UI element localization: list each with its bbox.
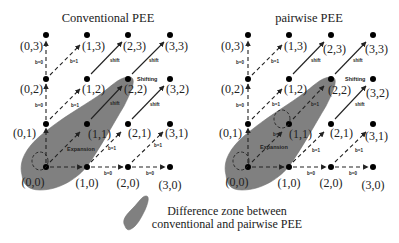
label-3-2: (3,2)	[366, 86, 389, 100]
label-2-0: (2,0)	[320, 176, 343, 190]
label-1-3: (1,3)	[284, 39, 307, 53]
panel-pairwise-pee: pairwise PEE	[219, 11, 389, 192]
edge-label-b0: b=0	[273, 132, 281, 137]
label-1-2: (1,2)	[82, 82, 105, 96]
edge-label-b0: b=0	[35, 60, 43, 65]
edge-label-shift: shift	[149, 58, 159, 63]
edge-label-b0: b=0	[35, 103, 43, 108]
edge-label-b1: b=1	[154, 143, 162, 148]
edge-label-shift: shift	[150, 102, 160, 107]
edge-label-b0: b=0	[236, 60, 244, 65]
label-0-2: (0,2)	[221, 82, 244, 96]
edge-label-b1: b=1	[272, 102, 280, 107]
point-2-0	[328, 164, 334, 170]
label-2-0: (2,0)	[117, 176, 140, 190]
legend: Difference zone between conventional and…	[124, 196, 302, 231]
point-3-2	[370, 76, 376, 82]
label-3-1: (3,1)	[365, 129, 388, 143]
label-0-1: (0,1)	[13, 126, 36, 140]
edge-label-b0: b=0	[146, 171, 154, 176]
point-1-0	[84, 164, 90, 170]
point-0-1	[43, 121, 49, 127]
label-0-0: (0,0)	[22, 175, 45, 189]
edge-label-b1: b=1	[70, 59, 78, 64]
edge-label-shift: shift	[110, 58, 120, 63]
point-2-3	[328, 32, 334, 38]
label-2-3: (2,3)	[323, 42, 346, 56]
panel-title: pairwise PEE	[275, 11, 343, 25]
point-0-3	[245, 32, 251, 38]
point-0-0	[245, 164, 251, 170]
edge-label-shift: shift	[311, 58, 321, 63]
label-0-3: (0,3)	[20, 39, 43, 53]
pee-diagram: Conventional PEE	[0, 0, 399, 243]
edge-label-b0: b=0	[104, 171, 112, 176]
label-2-1: (2,1)	[330, 126, 353, 140]
shifting-label: Shifting	[137, 76, 157, 82]
label-3-2: (3,2)	[166, 82, 189, 96]
panel-title: Conventional PEE	[62, 11, 155, 25]
point-0-3	[43, 32, 49, 38]
label-2-2: (2,2)	[328, 83, 351, 97]
label-3-0: (3,0)	[362, 178, 385, 192]
point-3-3	[370, 32, 376, 38]
edge-label-b0: b=0	[349, 171, 357, 176]
point-3-0	[167, 164, 173, 170]
point-2-3	[125, 32, 131, 38]
point-3-0	[370, 164, 376, 170]
expansion-label: Expansion	[67, 146, 95, 152]
edge-label-b0: b=0	[236, 103, 244, 108]
panel-conventional-pee: Conventional PEE	[13, 11, 189, 192]
point-0-2	[43, 76, 49, 82]
label-0-1: (0,1)	[219, 126, 242, 140]
label-1-0: (1,0)	[278, 176, 301, 190]
edge-label-b1: b=1	[355, 148, 363, 153]
edge-label-b1: b=1	[312, 148, 320, 153]
label-3-3: (3,3)	[165, 39, 188, 53]
label-1-2: (1,2)	[284, 82, 307, 96]
label-1-3: (1,3)	[82, 39, 105, 53]
point-3-3	[167, 32, 173, 38]
edge-label-shift: shift	[353, 58, 363, 63]
legend-line-1: Difference zone between	[167, 204, 287, 218]
point-1-3	[286, 32, 292, 38]
edge-label-b1: b=1	[71, 103, 79, 108]
point-0-2	[245, 76, 251, 82]
point-2-2	[328, 76, 334, 82]
edge-label-b1: b=1	[311, 102, 319, 107]
label-0-0: (0,0)	[226, 175, 249, 189]
label-1-1: (1,1)	[289, 127, 312, 141]
label-3-3: (3,3)	[365, 42, 388, 56]
label-0-3: (0,3)	[221, 39, 244, 53]
point-3-1	[370, 121, 376, 127]
label-3-1: (3,1)	[165, 126, 188, 140]
shifting-label: Shifting	[345, 76, 365, 82]
label-1-1: (1,1)	[88, 127, 111, 141]
label-3-0: (3,0)	[159, 178, 182, 192]
expansion-label: Expansion	[260, 144, 288, 150]
edge-label-shift: shift	[110, 101, 120, 106]
edge-label-b1: b=1	[271, 59, 279, 64]
label-2-3: (2,3)	[123, 39, 146, 53]
label-0-2: (0,2)	[20, 82, 43, 96]
label-2-1: (2,1)	[128, 126, 151, 140]
edge-label-shift: shift	[355, 102, 365, 107]
point-1-3	[84, 32, 90, 38]
point-0-1	[245, 121, 251, 127]
edge-label-b1: b=1	[108, 146, 116, 151]
point-2-0	[125, 164, 131, 170]
label-1-0: (1,0)	[76, 176, 99, 190]
label-2-2: (2,2)	[124, 82, 147, 96]
legend-line-2: conventional and pairwise PEE	[152, 217, 302, 231]
edge-label-b0: b=0	[307, 171, 315, 176]
point-1-0	[286, 164, 292, 170]
legend-zone-swatch	[124, 196, 149, 230]
